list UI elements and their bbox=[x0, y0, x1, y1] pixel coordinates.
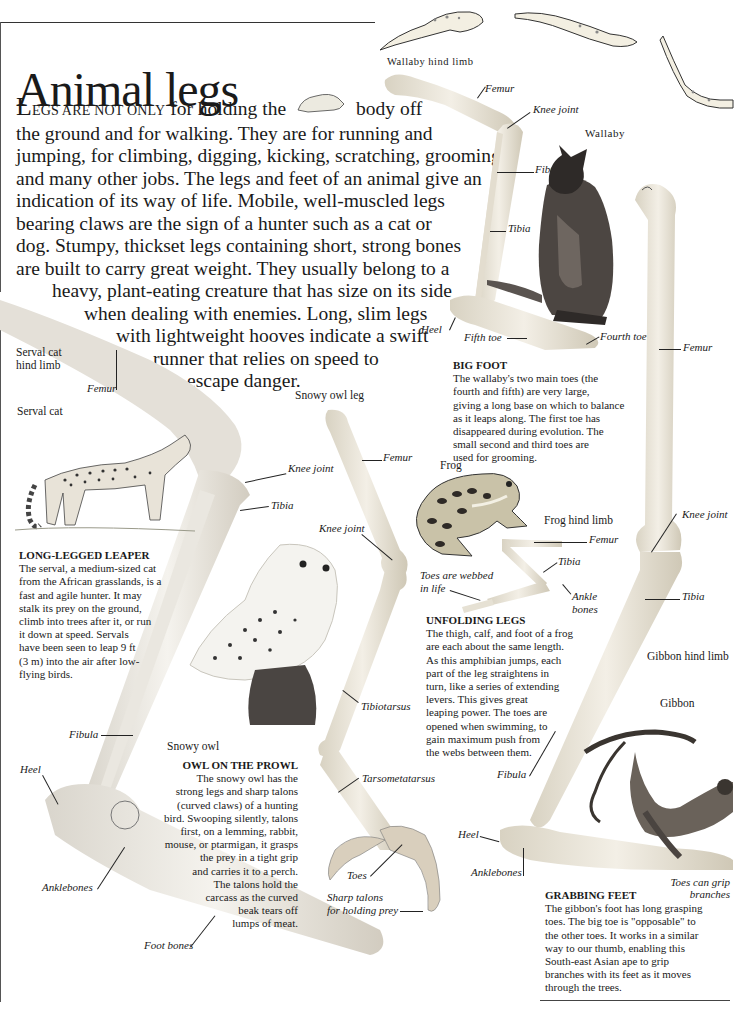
serval-animal-label: Serval cat bbox=[17, 405, 63, 417]
intro-small-caps: EGS ARE NOT ONLY bbox=[32, 103, 165, 118]
caption-line: the webs between them. bbox=[426, 746, 606, 759]
caption-line: The snowy owl has the bbox=[158, 772, 298, 785]
leader-line bbox=[534, 542, 587, 543]
caption-line: As this amphibian jumps, each bbox=[426, 654, 606, 667]
gibbon-caption: GRABBING FEET The gibbon's foot has long… bbox=[545, 889, 735, 995]
caption-line: the prey in a tight grip bbox=[158, 851, 298, 864]
gibbon-animal-label: Gibbon bbox=[660, 697, 695, 709]
caption-line: first, on a lemming, rabbit, bbox=[158, 825, 298, 838]
gibbon-femur-label: Femur bbox=[683, 341, 712, 353]
caption-line: mouse, or ptarmigan, it grasps bbox=[158, 838, 298, 851]
gibbon-limb-heading: Gibbon hind limb bbox=[647, 650, 729, 662]
owl-tibiotarsus-label: Tibiotarsus bbox=[361, 700, 411, 712]
caption-line: bird. Swooping silently, talons bbox=[158, 812, 298, 825]
caption-line: way to our thumb, enabling this bbox=[545, 942, 735, 955]
caption-line: toes. The big toe is "opposable" to bbox=[545, 915, 735, 928]
caption-line: beak tears off bbox=[158, 904, 298, 917]
left-rule bbox=[0, 22, 1, 292]
serval-tibia-label: Tibia bbox=[271, 499, 294, 511]
serval-femur-label: Femur bbox=[87, 382, 116, 394]
caption-line: The gibbon's foot has long grasping bbox=[545, 902, 735, 915]
leader-line bbox=[659, 349, 681, 350]
owl-talons-label-2: for holding prey bbox=[327, 904, 398, 916]
owl-talons-label-1: Sharp talons bbox=[327, 891, 383, 903]
serval-foot-bones-label: Foot bones bbox=[144, 939, 193, 951]
caption-line: and carries it to a perch. bbox=[158, 865, 298, 878]
leader-line bbox=[116, 350, 117, 390]
gibbon-toes-label-1: Toes can grip bbox=[670, 876, 730, 888]
caption-title: GRABBING FEET bbox=[545, 889, 735, 902]
caption-line: (3 m) into the air after low- bbox=[19, 655, 189, 668]
caption-line: through the trees. bbox=[545, 981, 735, 994]
caption-line: opened when swimming, to bbox=[426, 720, 606, 733]
caption-line: The serval, a medium-sized cat bbox=[19, 562, 189, 575]
serval-fibula-label: Fibula bbox=[69, 728, 98, 740]
frog-limb-heading: Frog hind limb bbox=[544, 514, 613, 526]
wallaby-femur-label: Femur bbox=[485, 82, 514, 94]
wallaby-heel-label: Heel bbox=[421, 323, 442, 335]
caption-line: (curved claws) of a hunting bbox=[158, 799, 298, 812]
caption-line: are each about the same length. bbox=[426, 640, 606, 653]
frog-caption: UNFOLDING LEGS The thigh, calf, and foot… bbox=[426, 614, 606, 759]
owl-limb-heading: Snowy owl leg bbox=[295, 389, 364, 401]
caption-line: climb into trees after it, or run bbox=[19, 615, 189, 628]
caption-title: OWL ON THE PROWL bbox=[158, 759, 298, 772]
serval-heel-label: Heel bbox=[20, 763, 41, 775]
caption-line: from the African grasslands, is a bbox=[19, 575, 189, 588]
owl-toes-label: Toes bbox=[347, 869, 367, 881]
leader-line bbox=[101, 735, 133, 736]
caption-line: levers. This gives great bbox=[426, 693, 606, 706]
owl-femur-label: Femur bbox=[383, 451, 412, 463]
caption-line: turn, like a series of extending bbox=[426, 680, 606, 693]
gibbon-tibia-label: Tibia bbox=[682, 590, 705, 602]
snowy-owl-illustration bbox=[185, 540, 350, 725]
bottom-rule bbox=[540, 1000, 730, 1001]
caption-line: branches with its feet as it moves bbox=[545, 968, 735, 981]
caption-line: fast and agile hunter. It may bbox=[19, 589, 189, 602]
frog-ankle-label-1: Ankle bbox=[572, 590, 597, 602]
frog-webbed-label-2: in life bbox=[420, 582, 445, 594]
caption-line: gain maximum push from bbox=[426, 733, 606, 746]
frog-tibia-label: Tibia bbox=[558, 555, 581, 567]
intro-line: for holding the bbox=[165, 98, 286, 119]
caption-line: it down at speed. Servals bbox=[19, 628, 189, 641]
wallaby-animal-label: Wallaby bbox=[585, 127, 625, 139]
leader-line bbox=[523, 848, 524, 876]
leader-line bbox=[645, 599, 680, 600]
caption-line: the other toes. It works in a similar bbox=[545, 929, 735, 942]
gibbon-illustration bbox=[585, 712, 733, 862]
owl-knee-joint-label: Knee joint bbox=[319, 522, 365, 534]
small-frog-icon bbox=[286, 94, 356, 112]
leader-line bbox=[400, 911, 423, 912]
wallaby-limb-heading: Wallaby hind limb bbox=[387, 56, 473, 67]
heading-line: hind limb bbox=[16, 359, 62, 372]
caption-line: lumps of meat. bbox=[158, 917, 298, 930]
owl-animal-label: Snowy owl bbox=[167, 740, 219, 752]
gibbon-fibula-label: Fibula bbox=[497, 768, 526, 780]
serval-cat-illustration bbox=[15, 425, 195, 535]
caption-line: The thigh, calf, and foot of a frog bbox=[426, 627, 606, 640]
caption-line: strong legs and sharp talons bbox=[158, 785, 298, 798]
wallaby-knee-joint-label: Knee joint bbox=[533, 103, 579, 115]
caption-line: stalk its prey on the ground, bbox=[19, 602, 189, 615]
caption-title: UNFOLDING LEGS bbox=[426, 614, 606, 627]
frog-webbed-label-1: Toes are webbed bbox=[420, 569, 493, 581]
caption-line: South-east Asian ape to grip bbox=[545, 955, 735, 968]
gibbon-heel-label: Heel bbox=[458, 828, 479, 840]
gibbon-knee-joint-label: Knee joint bbox=[682, 508, 728, 520]
gibbon-anklebones-label: Anklebones bbox=[471, 866, 522, 878]
caption-line: have been seen to leap 9 ft bbox=[19, 641, 189, 654]
heading-line: Serval cat bbox=[16, 346, 62, 359]
caption-line: part of the leg straightens in bbox=[426, 667, 606, 680]
serval-limb-heading: Serval cat hind limb bbox=[16, 346, 62, 372]
caption-line: carcass as the curved bbox=[158, 891, 298, 904]
serval-caption: LONG-LEGGED LEAPER The serval, a medium-… bbox=[19, 549, 189, 681]
caption-line: leaping power. The toes are bbox=[426, 706, 606, 719]
caption-line: The talons hold the bbox=[158, 878, 298, 891]
frog-femur-label: Femur bbox=[589, 533, 618, 545]
serval-anklebones-label: Anklebones bbox=[42, 881, 93, 893]
owl-caption: OWL ON THE PROWL The snowy owl has the s… bbox=[158, 759, 298, 931]
leader-line bbox=[362, 460, 382, 461]
caption-title: LONG-LEGGED LEAPER bbox=[19, 549, 189, 562]
owl-tarsometatarsus-label: Tarsometatarsus bbox=[362, 772, 435, 784]
